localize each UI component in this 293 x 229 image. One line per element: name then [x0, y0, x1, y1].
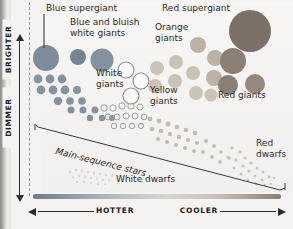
vertical-axis-dashed-line — [29, 2, 30, 196]
temperature-axis-line-left — [38, 211, 94, 212]
axis-label-dimmer: DIMMER — [3, 88, 14, 148]
up-arrow-icon — [16, 34, 24, 41]
right-arrow-icon — [278, 208, 286, 216]
temperature-axis-line-right — [220, 211, 276, 212]
label-yellow-giants: Yellow giants — [150, 85, 178, 106]
label-blue-supergiant: Blue supergiant — [46, 3, 117, 14]
axis-label-cooler: COOLER — [180, 206, 218, 215]
luminosity-axis — [12, 34, 28, 202]
axis-label-brighter: BRIGHTER — [3, 20, 14, 80]
label-red-dwarfs: Red dwarfs — [256, 138, 286, 159]
label-blue-and-bluish-white-giants: Blue and bluish white giants — [70, 17, 139, 38]
label-orange-giants: Orange giants — [155, 22, 188, 43]
left-arrow-icon — [28, 208, 36, 216]
axis-label-hotter: HOTTER — [96, 206, 134, 215]
down-arrow-icon — [16, 195, 24, 202]
label-red-supergiant: Red supergiant — [162, 3, 230, 14]
hr-diagram-figure: BRIGHTER DIMMER — [0, 0, 293, 229]
label-white-giants: White giants — [96, 68, 124, 89]
label-white-dwarfs: White dwarfs — [116, 174, 175, 185]
label-red-giants: Red giants — [218, 90, 266, 101]
temperature-axis: HOTTER COOLER — [28, 205, 286, 219]
temperature-gradient-bar — [33, 194, 281, 199]
luminosity-axis-line — [19, 40, 20, 196]
